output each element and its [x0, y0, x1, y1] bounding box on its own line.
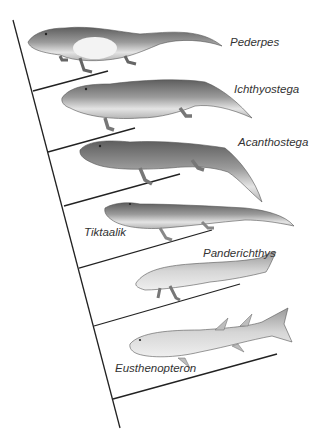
- branch-panderichthys: [94, 284, 240, 326]
- branch-acanthostega: [64, 174, 180, 206]
- pederpes-illustration: [28, 27, 222, 72]
- taxon-label-pederpes: Pederpes: [230, 36, 279, 48]
- cladogram-trunk: [13, 20, 120, 428]
- taxon-label-ichthyostega: Ichthyostega: [234, 83, 299, 95]
- ichthyostega-illustration: [62, 80, 252, 130]
- tiktaalik-illustration: [105, 203, 294, 240]
- taxon-label-eusthenopteron: Eusthenopteron: [115, 362, 196, 374]
- branch-eusthenopteron: [113, 354, 277, 399]
- taxon-label-tiktaalik: Tiktaalik: [84, 226, 126, 238]
- panderichthys-illustration: [136, 252, 276, 300]
- acanthostega-illustration: [80, 141, 262, 202]
- taxon-label-acanthostega: Acanthostega: [238, 136, 308, 148]
- eusthenopteron-illustration: [130, 308, 292, 368]
- taxon-label-panderichthys: Panderichthys: [203, 247, 276, 259]
